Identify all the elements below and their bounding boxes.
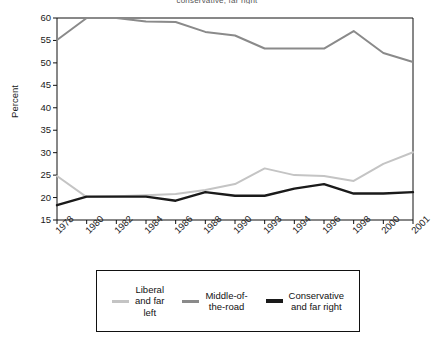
x-axis-tick-label: 1988 <box>201 213 224 236</box>
x-axis-tick-label: 1996 <box>320 213 343 236</box>
x-axis-tick-label: 1993 <box>261 213 284 236</box>
legend-entry-conservative-and-far-right: Conservative and far right <box>266 290 344 313</box>
x-axis-tick-label: 1994 <box>290 213 313 236</box>
x-axis-tick-label: 1980 <box>83 213 106 236</box>
x-axis-tick-label: 1984 <box>142 213 165 236</box>
x-axis-tick-label: 1978 <box>53 213 76 236</box>
legend-label: Liberal and far left <box>135 284 165 319</box>
x-axis-tick-label: 1986 <box>172 213 195 236</box>
legend-entry-liberal-and-far-left: Liberal and far left <box>112 284 165 319</box>
legend-label: Conservative and far right <box>289 290 344 313</box>
legend-entry-middle-of-the-road: Middle-of- the-road <box>182 290 247 313</box>
x-axis-tick-label: 1990 <box>231 213 254 236</box>
legend-label: Middle-of- the-road <box>205 290 247 313</box>
chart-figure: conservative, far right Percent 60555045… <box>0 0 434 338</box>
legend-swatch-icon <box>182 300 199 303</box>
x-axis-tick-label: 1982 <box>112 213 135 236</box>
x-axis-tick-label: 2001 <box>409 213 432 236</box>
x-axis-tick-label: 1998 <box>350 213 373 236</box>
x-axis-tick-label: 2000 <box>379 213 402 236</box>
legend-swatch-icon <box>266 299 283 303</box>
legend-swatch-icon <box>112 300 129 303</box>
chart-legend: Liberal and far leftMiddle-of- the-roadC… <box>96 270 360 332</box>
